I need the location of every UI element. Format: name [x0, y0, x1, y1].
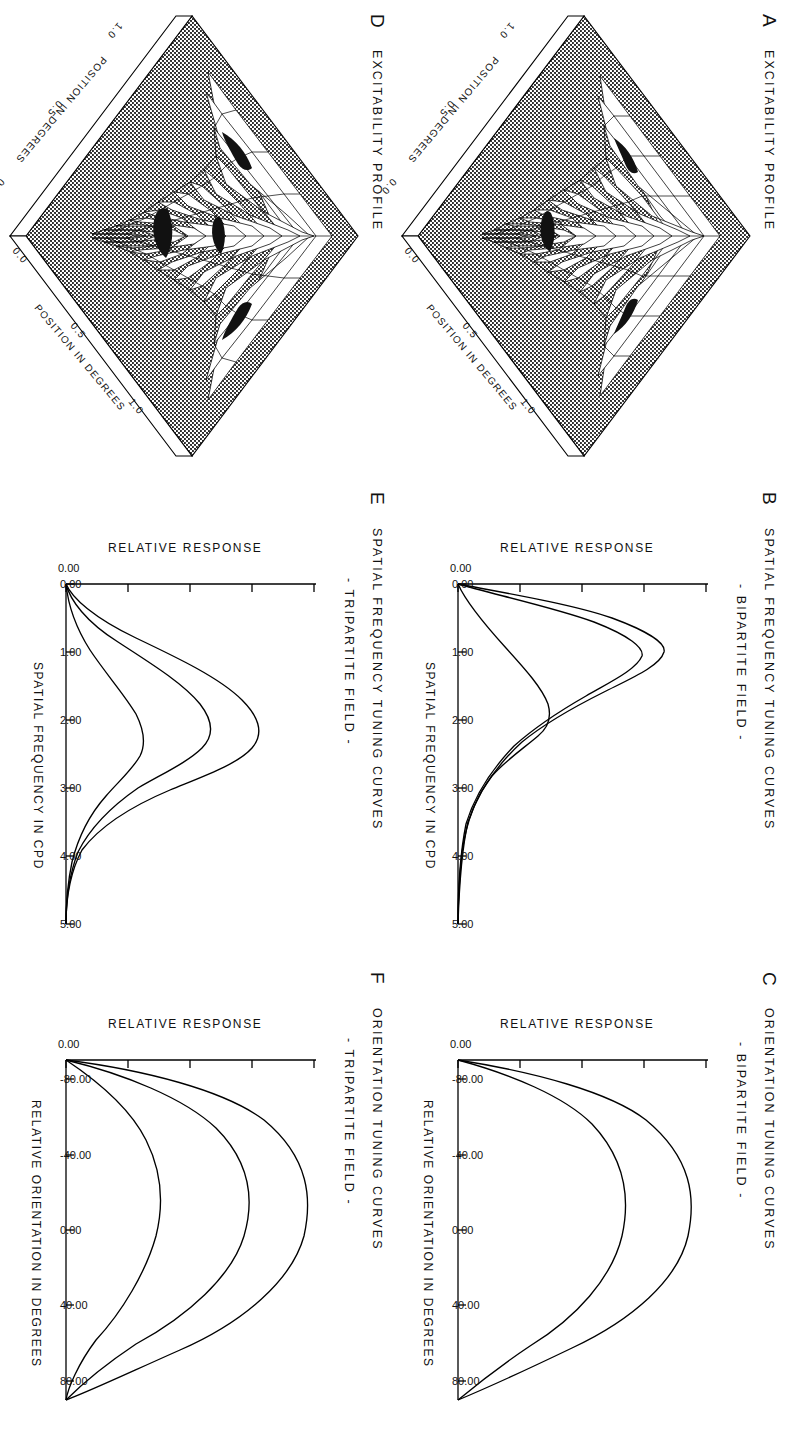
- panel-f-xtick-3: 40.00: [60, 1299, 88, 1311]
- panel-c-title: ORIENTATION TUNING CURVES: [762, 1008, 776, 1251]
- panel-b-xticklabels: 0.00 1.00 2.00 3.00 4.00 5.00: [452, 578, 473, 930]
- panel-e-ylabel: RELATIVE RESPONSE: [108, 541, 262, 555]
- panel-d-surface-plot: 0.0 0.5 1.0 POSITION IN DEGREES 1.0 0.5 …: [14, 8, 364, 468]
- panel-c-letter: C: [758, 972, 780, 987]
- panel-f-xtick-2: 0.00: [60, 1224, 81, 1236]
- panel-e-xtick-0: 0.00: [60, 578, 81, 590]
- panel-e-xtick-2: 2.00: [60, 714, 81, 726]
- panel-a-letter: A: [758, 14, 780, 28]
- panel-e-ytick-0: 0.00: [58, 562, 79, 574]
- panel-c-xtick-0: -80.00: [452, 1073, 483, 1085]
- panel-f-ytick-0: 0.00: [58, 1038, 79, 1050]
- panel-b-xtick-0: 0.00: [452, 578, 473, 590]
- panel-e-xtick-4: 4.00: [60, 850, 81, 862]
- panel-c-plot: -80.00 -40.00 0.00 40.00 80.00 RELATIVE …: [422, 1008, 722, 1428]
- panel-a-xtick-0: 1.0: [497, 21, 517, 41]
- panel-f: F ORIENTATION TUNING CURVES - TRIPARTITE…: [12, 968, 392, 1438]
- panel-f-curves: [66, 1060, 308, 1400]
- panel-b-subtitle: - BIPARTITE FIELD -: [734, 584, 748, 742]
- panel-c-xtick-3: 40.00: [452, 1299, 480, 1311]
- panel-c-axes: [458, 1060, 708, 1400]
- panel-b-curve-3: [458, 584, 550, 924]
- panel-b-curve-1: [458, 584, 664, 924]
- panel-c-xtick-2: 0.00: [452, 1224, 473, 1236]
- panel-a-surface-plot: 0.0 0.5 1.0 POSITION IN DEGREES 1.0 0.5 …: [406, 8, 756, 468]
- panel-e-curves: [66, 584, 259, 924]
- panel-f-xtick-0: -80.00: [60, 1073, 91, 1085]
- panel-c-ylabel: RELATIVE RESPONSE: [500, 1017, 654, 1031]
- panel-b-letter: B: [758, 492, 780, 506]
- panel-b-curve-2: [458, 584, 642, 924]
- panel-f-curve-1: [66, 1060, 308, 1400]
- panel-a-title: EXCITABILITY PROFILE: [762, 50, 776, 231]
- panel-e-subtitle: - TRIPARTITE FIELD -: [342, 578, 356, 746]
- panel-b-xtick-2: 2.00: [452, 714, 473, 726]
- panel-b-curves: [458, 584, 664, 924]
- panel-d-title: EXCITABILITY PROFILE: [370, 50, 384, 231]
- panel-e-curve-2: [66, 584, 211, 924]
- panel-e: E SPATIAL FREQUENCY TUNING CURVES - TRIP…: [12, 488, 392, 958]
- panel-e-curve-1: [66, 584, 259, 924]
- panel-b-xtick-1: 1.00: [452, 646, 473, 658]
- panel-f-xlabel: RELATIVE ORIENTATION IN DEGREES: [29, 1100, 43, 1368]
- panel-b-ylabel: RELATIVE RESPONSE: [500, 541, 654, 555]
- panel-b-title: SPATIAL FREQUENCY TUNING CURVES: [762, 528, 776, 830]
- panel-f-plot: -80.00 -40.00 0.00 40.00 80.00 RELATIVE …: [30, 1008, 330, 1428]
- panel-d-xtick-0: 1.0: [105, 21, 125, 41]
- panel-f-xticklabels: -80.00 -40.00 0.00 40.00 80.00: [60, 1073, 91, 1387]
- panel-f-xtick-1: -40.00: [60, 1149, 91, 1161]
- panel-e-xtick-5: 5.00: [60, 918, 81, 930]
- panel-d-letter: D: [366, 14, 388, 29]
- panel-b-xtick-3: 3.00: [452, 782, 473, 794]
- panel-f-ylabel: RELATIVE RESPONSE: [108, 1017, 262, 1031]
- panel-b-xtick-5: 5.00: [452, 918, 473, 930]
- panel-d-xtick-2: 0.0: [0, 177, 7, 197]
- panel-c: C ORIENTATION TUNING CURVES - BIPARTITE …: [404, 968, 784, 1438]
- panel-b: B SPATIAL FREQUENCY TUNING CURVES - BIPA…: [404, 488, 784, 958]
- panel-b-plot: 0.00 1.00 2.00 3.00 4.00 5.00 SPATIAL FR…: [422, 532, 722, 952]
- panel-e-letter: E: [366, 492, 388, 506]
- panel-f-subtitle: - TRIPARTITE FIELD -: [342, 1038, 356, 1206]
- panel-f-xtick-4: 80.00: [60, 1375, 88, 1387]
- panel-b-xlabel: SPATIAL FREQUENCY IN CPD: [423, 662, 437, 870]
- panel-b-xtick-4: 4.00: [452, 850, 473, 862]
- panel-d: D EXCITABILITY PROFILE: [12, 8, 392, 478]
- panel-e-axes: [66, 584, 316, 924]
- panel-c-xticklabels: -80.00 -40.00 0.00 40.00 80.00: [452, 1073, 483, 1387]
- panel-f-title: ORIENTATION TUNING CURVES: [370, 1008, 384, 1251]
- panel-e-xtick-3: 3.00: [60, 782, 81, 794]
- panel-e-curve-3: [66, 584, 143, 924]
- panel-c-xtick-4: 80.00: [452, 1375, 480, 1387]
- figure-canvas: A EXCITABILITY PROFILE: [0, 0, 802, 1452]
- panel-a: A EXCITABILITY PROFILE: [404, 8, 784, 478]
- panel-c-curve-2: [458, 1060, 626, 1400]
- panel-c-xlabel: RELATIVE ORIENTATION IN DEGREES: [421, 1100, 435, 1368]
- panel-c-curves: [458, 1060, 691, 1400]
- panel-e-xlabel: SPATIAL FREQUENCY IN CPD: [31, 662, 45, 870]
- panel-b-axes: [458, 584, 708, 924]
- panel-e-title: SPATIAL FREQUENCY TUNING CURVES: [370, 528, 384, 830]
- panel-c-ytick-0: 0.00: [450, 1038, 471, 1050]
- panel-c-subtitle: - BIPARTITE FIELD -: [734, 1042, 748, 1200]
- panel-c-xtick-1: -40.00: [452, 1149, 483, 1161]
- panel-e-xtick-1: 1.00: [60, 646, 81, 658]
- panel-f-letter: F: [366, 972, 388, 985]
- panel-e-plot: 0.00 1.00 2.00 3.00 4.00 5.00 SPATIAL FR…: [30, 532, 330, 952]
- panel-f-axes: [66, 1060, 316, 1400]
- panel-b-ytick-0: 0.00: [450, 562, 471, 574]
- panel-c-curve-1: [458, 1060, 691, 1400]
